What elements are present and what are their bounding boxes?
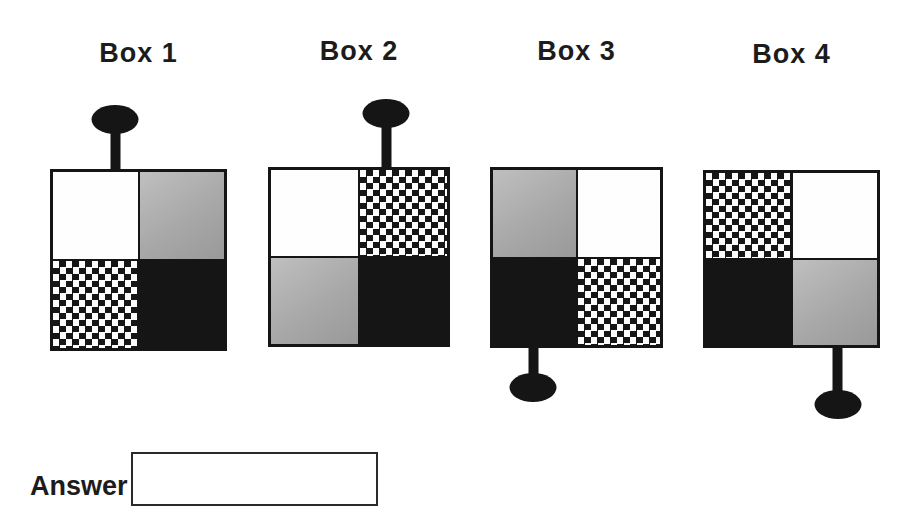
pin-knob-icon: [92, 105, 139, 134]
box-2-title: Box 2: [320, 36, 399, 67]
pin-stem: [110, 132, 120, 170]
box-1-grid: [50, 169, 227, 351]
box-1-quadrant-bottom-left: [53, 261, 138, 348]
pin-knob-icon: [363, 99, 410, 128]
box-2-pin: [363, 101, 410, 168]
pin-knob-icon: [814, 390, 861, 419]
pin-stem: [833, 347, 843, 392]
box-3-quadrant-bottom-right: [578, 259, 661, 346]
box-1-pin: [92, 107, 139, 170]
box-3-quadrant-bottom-left: [493, 259, 576, 346]
box-1-quadrant-top-right: [140, 172, 225, 259]
box-4: Box 4: [703, 170, 880, 348]
box-4-grid: [703, 170, 880, 348]
box-3-quadrant-top-right: [578, 170, 661, 257]
box-4-pin: [814, 347, 861, 417]
pin-knob-icon: [510, 373, 557, 402]
box-2-quadrant-top-right: [360, 170, 447, 256]
puzzle-page: Box 1 Box 2 Box 3: [0, 0, 918, 523]
box-4-quadrant-top-right: [793, 173, 878, 258]
box-1-quadrant-top-left: [53, 172, 138, 259]
box-3-title: Box 3: [537, 36, 616, 67]
box-3: Box 3: [490, 167, 663, 348]
box-4-quadrant-top-left: [706, 173, 791, 258]
box-3-quadrant-top-left: [493, 170, 576, 257]
pin-stem: [381, 126, 391, 168]
box-1: Box 1: [50, 169, 227, 351]
pin-stem: [528, 347, 538, 375]
box-2-grid: [268, 167, 450, 347]
box-1-title: Box 1: [99, 38, 178, 69]
box-1-quadrant-bottom-right: [140, 261, 225, 348]
box-4-title: Box 4: [752, 39, 831, 70]
box-2-quadrant-top-left: [271, 170, 358, 256]
box-2-quadrant-bottom-right: [360, 258, 447, 344]
box-2-quadrant-bottom-left: [271, 258, 358, 344]
box-2: Box 2: [268, 167, 450, 347]
box-4-quadrant-bottom-right: [793, 260, 878, 345]
answer-input[interactable]: [131, 452, 378, 506]
box-3-pin: [510, 347, 557, 400]
answer-label: Answer: [30, 471, 128, 502]
box-4-quadrant-bottom-left: [706, 260, 791, 345]
box-3-grid: [490, 167, 663, 348]
